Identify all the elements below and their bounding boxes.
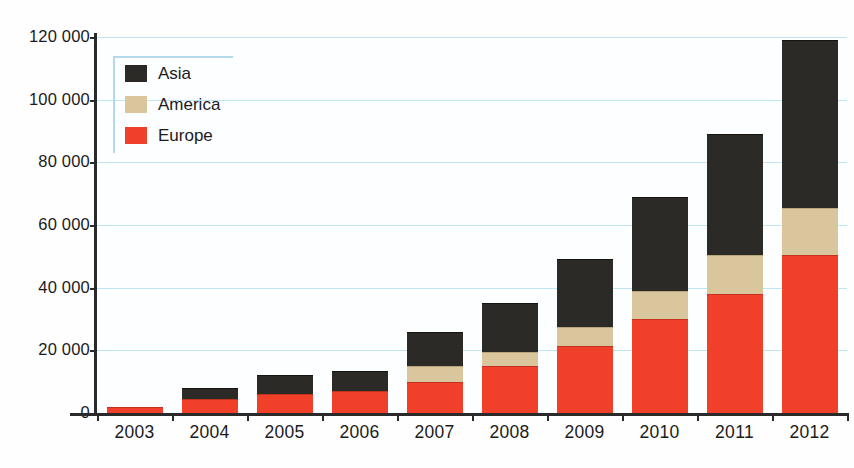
x-tick-mark xyxy=(547,414,549,421)
bar-segment-asia[interactable] xyxy=(407,332,463,366)
bar-segment-europe[interactable] xyxy=(182,399,238,413)
bar-segment-asia[interactable] xyxy=(707,134,763,255)
legend-label-europe: Europe xyxy=(158,127,213,144)
x-tick-label: 2009 xyxy=(547,422,623,443)
bar-segment-asia[interactable] xyxy=(557,259,613,326)
y-tick-label: 20 000 xyxy=(8,340,90,359)
x-tick-mark xyxy=(697,414,699,421)
bar-segment-america[interactable] xyxy=(557,327,613,346)
x-tick-label: 2008 xyxy=(472,422,548,443)
x-tick-label: 2011 xyxy=(697,422,773,443)
bar-group[interactable] xyxy=(632,197,688,413)
bar-group[interactable] xyxy=(557,259,613,413)
legend-label-asia: Asia xyxy=(158,65,191,82)
y-tick-label: 100 000 xyxy=(8,90,90,109)
bar-segment-europe[interactable] xyxy=(482,366,538,413)
x-tick-label: 2010 xyxy=(622,422,698,443)
bar-group[interactable] xyxy=(782,40,838,413)
bar-segment-europe[interactable] xyxy=(332,391,388,413)
bar-segment-europe[interactable] xyxy=(257,394,313,413)
legend-swatch-europe-icon xyxy=(125,127,147,144)
x-tick-mark xyxy=(397,414,399,421)
bar-segment-america[interactable] xyxy=(707,255,763,294)
bar-segment-asia[interactable] xyxy=(632,197,688,291)
bar-segment-europe[interactable] xyxy=(407,382,463,413)
y-tick-label: 120 000 xyxy=(8,27,90,46)
y-tick-label: 40 000 xyxy=(8,278,90,297)
x-tick-label: 2003 xyxy=(97,422,173,443)
bar-segment-asia[interactable] xyxy=(782,40,838,208)
bar-group[interactable] xyxy=(257,375,313,413)
bar-group[interactable] xyxy=(482,303,538,413)
bar-group[interactable] xyxy=(107,407,163,413)
x-tick-label: 2007 xyxy=(397,422,473,443)
x-tick-label: 2005 xyxy=(247,422,323,443)
bar-segment-asia[interactable] xyxy=(257,375,313,394)
x-tick-mark xyxy=(247,414,249,421)
y-tick-label: 60 000 xyxy=(8,215,90,234)
bar-segment-america[interactable] xyxy=(632,291,688,319)
x-tick-mark xyxy=(472,414,474,421)
x-tick-label: 2006 xyxy=(322,422,398,443)
bar-group[interactable] xyxy=(407,332,463,413)
y-tick-label: 80 000 xyxy=(8,152,90,171)
bar-group[interactable] xyxy=(182,388,238,413)
legend-item-europe[interactable]: Europe xyxy=(125,127,213,144)
bar-segment-europe[interactable] xyxy=(107,407,163,413)
x-tick-mark xyxy=(172,414,174,421)
bar-segment-europe[interactable] xyxy=(632,319,688,413)
bar-group[interactable] xyxy=(332,371,388,413)
bar-segment-europe[interactable] xyxy=(782,255,838,413)
bar-segment-asia[interactable] xyxy=(182,388,238,399)
stacked-bar-chart: 020 00040 00060 00080 000100 000120 000 … xyxy=(0,0,854,468)
x-axis-line xyxy=(70,413,849,416)
x-tick-mark xyxy=(772,414,774,421)
x-tick-mark xyxy=(622,414,624,421)
bar-segment-america[interactable] xyxy=(782,208,838,255)
bar-segment-america[interactable] xyxy=(482,352,538,366)
legend-swatch-america-icon xyxy=(125,96,147,113)
y-axis: 020 00040 00060 00080 000100 000120 000 xyxy=(0,0,90,468)
x-tick-mark xyxy=(322,414,324,421)
x-tick-label: 2004 xyxy=(172,422,248,443)
bar-segment-asia[interactable] xyxy=(482,303,538,352)
x-tick-mark xyxy=(847,414,849,421)
bar-segment-europe[interactable] xyxy=(707,294,763,413)
legend-label-america: America xyxy=(158,96,220,113)
chart-legend: Asia America Europe xyxy=(113,56,233,153)
legend-swatch-asia-icon xyxy=(125,65,147,82)
bar-segment-america[interactable] xyxy=(407,366,463,382)
bar-segment-europe[interactable] xyxy=(557,346,613,413)
legend-item-asia[interactable]: Asia xyxy=(125,65,191,82)
bar-group[interactable] xyxy=(707,134,763,413)
bar-segment-asia[interactable] xyxy=(332,371,388,391)
legend-item-america[interactable]: America xyxy=(125,96,220,113)
x-tick-mark xyxy=(97,414,99,421)
x-tick-label: 2012 xyxy=(772,422,848,443)
